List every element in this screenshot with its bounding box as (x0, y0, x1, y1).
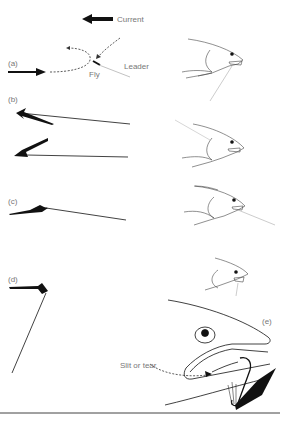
approach-path (98, 38, 120, 57)
fly-icon (93, 61, 100, 65)
panel-d: (d) (8, 258, 248, 373)
panel-b-label: (b) (8, 95, 18, 104)
fly-hooking-diagram: Current (a) Fly Leader (b) (0, 0, 283, 423)
leader-label: Leader (124, 62, 149, 71)
fish-head-a (182, 39, 243, 101)
slit-label: Slit or tear (120, 361, 157, 370)
arrow-left-icon (82, 14, 113, 24)
fly-c-icon (9, 205, 48, 215)
panel-e-label: (e) (262, 317, 272, 326)
panel-c-label: (c) (8, 197, 18, 206)
fly-d-icon (9, 283, 48, 294)
fly-b2-icon (14, 138, 48, 157)
fly-e-icon (235, 368, 276, 410)
drift-arrow-icon (66, 46, 70, 50)
fish-head-b (175, 120, 244, 190)
current-indicator: Current (82, 14, 144, 24)
panel-d-label: (d) (8, 275, 18, 284)
panel-e: (e) Slit or tear (120, 300, 276, 410)
fly-label: Fly (89, 70, 100, 79)
current-label: Current (117, 15, 144, 24)
leader-line-d (12, 293, 46, 373)
fly-drift-path (50, 48, 90, 72)
panel-b: (b) (8, 95, 244, 190)
leader-line-c (46, 208, 126, 220)
fish-head-d (205, 258, 248, 296)
slit-pointer (150, 364, 208, 376)
panel-a-label: (a) (8, 59, 18, 68)
leader-line-b2 (26, 155, 128, 157)
line-arrow-right-icon (8, 68, 46, 76)
panel-a: (a) Fly Leader (8, 38, 243, 101)
panel-c: (c) (8, 186, 275, 225)
fly-b1-icon (16, 108, 54, 125)
fish-head-c (184, 186, 275, 225)
